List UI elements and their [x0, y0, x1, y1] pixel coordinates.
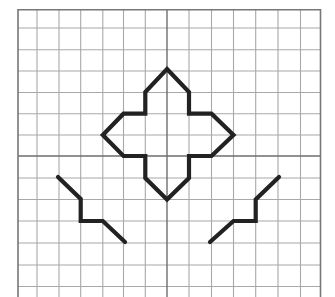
left-zigzag — [58, 177, 125, 242]
border-frame — [18, 10, 321, 297]
grid-lines — [18, 10, 321, 297]
four-point-star — [103, 69, 234, 200]
grid-border — [18, 10, 321, 297]
center-axes — [18, 10, 321, 297]
right-zigzag — [210, 177, 279, 242]
grid-diagram — [0, 0, 335, 297]
